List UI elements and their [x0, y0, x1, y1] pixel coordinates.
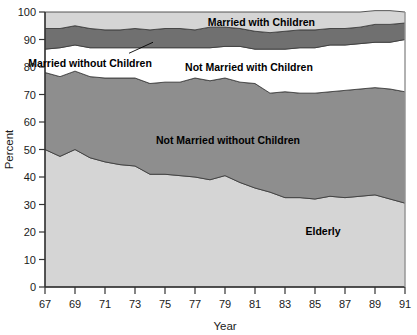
x-tick-label: 87	[339, 298, 351, 310]
y-tick-label: 100	[18, 6, 36, 18]
y-tick-label: 30	[24, 199, 36, 211]
x-tick-label: 89	[369, 298, 381, 310]
y-tick-label: 60	[24, 116, 36, 128]
x-tick-label: 79	[219, 298, 231, 310]
series-label-not-married-without-children: Not Married without Children	[156, 134, 300, 146]
y-tick-label: 10	[24, 254, 36, 266]
series-label-married-with-children: Married with Children	[208, 16, 315, 28]
y-tick-label: 20	[24, 226, 36, 238]
series-label-not-married-with-children: Not Married with Children	[185, 61, 313, 73]
x-tick-label: 85	[309, 298, 321, 310]
x-tick-label: 77	[189, 298, 201, 310]
y-tick-label: 50	[24, 144, 36, 156]
x-tick-label: 69	[69, 298, 81, 310]
series-label-elderly: Elderly	[305, 225, 340, 237]
y-tick-label: 0	[30, 281, 36, 293]
y-tick-label: 40	[24, 171, 36, 183]
y-tick-label: 90	[24, 34, 36, 46]
x-tick-label: 75	[159, 298, 171, 310]
x-axis-title: Year	[213, 320, 236, 332]
x-tick-label: 71	[99, 298, 111, 310]
chart-container: 0102030405060708090100676971737577798183…	[0, 0, 417, 335]
series-label-married-without-children: Married without Children	[28, 57, 152, 69]
y-axis-title: Percent	[3, 129, 15, 169]
area-chart-figure: 0102030405060708090100676971737577798183…	[0, 0, 417, 335]
x-tick-label: 81	[249, 298, 261, 310]
x-tick-label: 67	[39, 298, 51, 310]
x-tick-label: 73	[129, 298, 141, 310]
x-tick-label: 83	[279, 298, 291, 310]
stacked-area-bands	[45, 11, 405, 287]
y-tick-label: 70	[24, 89, 36, 101]
x-tick-label: 91	[399, 298, 411, 310]
